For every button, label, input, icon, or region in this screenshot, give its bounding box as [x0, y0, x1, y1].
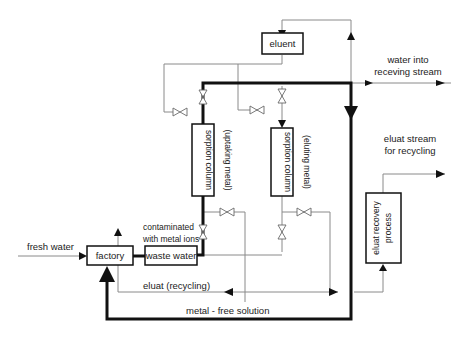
- factory-label: factory: [96, 250, 125, 261]
- recovery-label-line2: process: [383, 213, 393, 243]
- arrow-fresh-water-icon: [79, 252, 87, 260]
- factory-box: factory: [87, 246, 133, 265]
- arrow-eluat-left-icon: [224, 288, 233, 296]
- column-uptake-sublabel: (uptaking metal): [223, 130, 233, 191]
- arrow-eluat-to-factory-icon: [114, 228, 122, 236]
- arrow-receiving-mid-icon: [365, 80, 373, 86]
- column-elute-label: sorption column: [283, 132, 293, 192]
- sorption-column-uptaking: sorption column (uptaking metal): [192, 124, 233, 196]
- eluent-box: eluent: [262, 33, 303, 54]
- right-bottom-bypass: [282, 212, 330, 294]
- eluent-label: eluent: [270, 38, 296, 49]
- arrow-eluat-stream-icon: [436, 170, 445, 178]
- valve-left-top-icon[interactable]: [199, 90, 207, 104]
- arrow-up-return-icon: [347, 32, 355, 40]
- eluat-stream-label-2: for recycling: [384, 145, 435, 156]
- contaminated-label-1: contaminated: [143, 222, 194, 232]
- to-recovery-line: [354, 271, 383, 292]
- valve-left-horizontal-top-icon[interactable]: [173, 108, 187, 116]
- arrow-eluat-right-icon: [329, 288, 338, 296]
- process-flow-diagram: eluent sorption column (uptaking metal) …: [0, 0, 472, 344]
- valve-mid-horizontal-top-icon[interactable]: [250, 106, 264, 114]
- waste-water-label: waste water: [145, 250, 197, 261]
- valve-right-bottom-horizontal-icon[interactable]: [297, 208, 311, 216]
- eluat-recovery-box: eluat recovery process: [366, 193, 401, 263]
- eluat-recycling-label: eluat (recycling): [143, 280, 210, 291]
- sorption-column-eluting: sorption column (eluting metal): [271, 128, 312, 196]
- recovery-label-line1: eluat recovery: [371, 201, 381, 255]
- eluent-feed-mid: [238, 64, 262, 110]
- contaminated-label-2: with metal ions: [142, 234, 199, 244]
- fresh-water-label: fresh water: [27, 241, 74, 252]
- arrow-metal-free-to-factory-icon: [99, 266, 115, 282]
- valve-left-bottom-horizontal-icon[interactable]: [220, 208, 234, 216]
- waste-water-box: waste water: [145, 246, 197, 265]
- arrow-into-right-column-icon: [278, 120, 286, 128]
- valve-right-bottom-vertical-icon[interactable]: [278, 225, 286, 239]
- arrow-main-down-icon: [344, 106, 358, 120]
- eluat-stream-label-1: eluat stream: [384, 133, 436, 144]
- valve-right-top-icon[interactable]: [278, 89, 286, 103]
- column-uptake-label: sorption column: [204, 130, 214, 190]
- valve-left-bottom-vertical-icon[interactable]: [199, 225, 207, 239]
- water-into-label-1: water into: [386, 54, 428, 65]
- arrow-receiving-right-icon: [436, 80, 445, 86]
- water-into-label-2: receving stream: [374, 66, 442, 77]
- metal-free-solution-label: metal - free solution: [186, 305, 269, 316]
- arrow-into-recovery-icon: [379, 264, 387, 271]
- column-elute-sublabel: (eluting metal): [302, 135, 312, 189]
